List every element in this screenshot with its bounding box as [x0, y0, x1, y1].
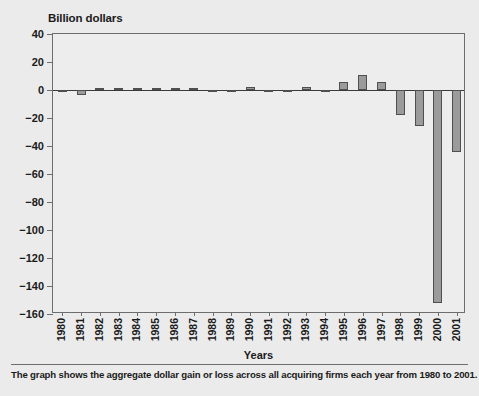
bar-1986: [171, 88, 180, 90]
bar-1989: [227, 90, 236, 92]
x-axis-tick: [137, 312, 138, 316]
bar-1999: [415, 90, 424, 126]
chart-footnote: The graph shows the aggregate dollar gai…: [11, 369, 471, 380]
x-axis-label-1998: 1998: [394, 318, 405, 341]
x-axis-label-1982: 1982: [94, 318, 105, 341]
y-axis-tick: [47, 90, 53, 91]
x-axis-tick: [344, 312, 345, 316]
footnote-divider: [11, 364, 468, 365]
y-axis-tick: [47, 174, 53, 175]
y-axis-tick: [47, 258, 53, 259]
x-axis-label-1986: 1986: [169, 318, 180, 341]
bar-1995: [339, 82, 348, 90]
bar-1998: [396, 90, 405, 115]
y-axis-label: −100: [19, 224, 44, 236]
x-axis-title: Years: [52, 349, 465, 361]
x-axis-label-1987: 1987: [188, 318, 199, 341]
x-axis-tick: [62, 312, 63, 316]
bar-1985: [152, 88, 161, 90]
x-axis-label-1989: 1989: [225, 318, 236, 341]
x-axis-label-1995: 1995: [338, 318, 349, 341]
x-axis-label-1997: 1997: [376, 318, 387, 341]
x-axis-tick: [457, 312, 458, 316]
bar-1992: [283, 90, 292, 92]
bar-1984: [133, 88, 142, 90]
x-axis-tick: [438, 312, 439, 316]
y-axis-label: −160: [19, 308, 44, 320]
y-axis-label: 40: [32, 28, 44, 40]
x-axis-tick: [363, 312, 364, 316]
x-axis-tick: [119, 312, 120, 316]
y-axis-label: −20: [25, 112, 44, 124]
bar-1982: [95, 88, 104, 90]
y-axis-tick: [47, 202, 53, 203]
x-axis-label-1988: 1988: [207, 318, 218, 341]
y-axis-tick: [47, 286, 53, 287]
plot-frame: 40200−20−40−60−80−100−120−140−160: [52, 33, 465, 313]
x-axis-label-1984: 1984: [131, 318, 142, 341]
plot-area: 40200−20−40−60−80−100−120−140−160: [53, 34, 464, 312]
bar-1981: [77, 90, 86, 95]
y-axis-tick: [47, 230, 53, 231]
y-axis-label: 20: [32, 56, 44, 68]
bar-1991: [264, 90, 273, 92]
x-axis-tick: [231, 312, 232, 316]
bar-1996: [358, 75, 367, 90]
bar-1990: [246, 87, 255, 90]
x-axis-tick: [306, 312, 307, 316]
x-axis-label-1981: 1981: [75, 318, 86, 341]
x-axis-tick: [100, 312, 101, 316]
x-axis-label-2000: 2000: [432, 318, 443, 341]
y-axis-tick: [47, 146, 53, 147]
x-axis-tick: [269, 312, 270, 316]
y-axis-label: −60: [25, 168, 44, 180]
y-axis-label: 0: [38, 84, 44, 96]
bar-1993: [302, 87, 311, 90]
x-axis-label-1990: 1990: [244, 318, 255, 341]
y-axis-label: −80: [25, 196, 44, 208]
y-axis-label: −120: [19, 252, 44, 264]
x-axis-tick: [175, 312, 176, 316]
x-axis-label-1991: 1991: [263, 318, 274, 341]
x-axis-label-1992: 1992: [282, 318, 293, 341]
y-axis-tick: [47, 118, 53, 119]
bar-2000: [433, 90, 442, 303]
y-axis-label: −140: [19, 280, 44, 292]
x-axis-tick: [213, 312, 214, 316]
x-axis-label-1985: 1985: [150, 318, 161, 341]
x-axis-tick: [194, 312, 195, 316]
bar-1987: [189, 88, 198, 90]
bar-1997: [377, 82, 386, 90]
x-axis-tick: [382, 312, 383, 316]
x-axis-label-2001: 2001: [451, 318, 462, 341]
x-axis-label-1980: 1980: [56, 318, 67, 341]
bar-1983: [114, 88, 123, 90]
y-axis-label: −40: [25, 140, 44, 152]
x-axis-label-1993: 1993: [300, 318, 311, 341]
x-axis-tick: [288, 312, 289, 316]
bar-1980: [58, 90, 67, 92]
x-axis-label-1994: 1994: [319, 318, 330, 341]
bar-1988: [208, 90, 217, 92]
x-axis-tick: [325, 312, 326, 316]
x-axis-tick: [156, 312, 157, 316]
x-axis-label-1983: 1983: [113, 318, 124, 341]
y-axis-title: Billion dollars: [48, 12, 123, 24]
y-axis-tick: [47, 62, 53, 63]
x-axis-tick: [81, 312, 82, 316]
chart-page: Billion dollars 40200−20−40−60−80−100−12…: [0, 0, 479, 396]
bar-2001: [452, 90, 461, 152]
bar-1994: [321, 90, 330, 92]
x-axis-label-1996: 1996: [357, 318, 368, 341]
y-axis-tick: [47, 314, 53, 315]
x-axis-tick: [250, 312, 251, 316]
x-axis-tick: [419, 312, 420, 316]
x-axis-label-1999: 1999: [413, 318, 424, 341]
x-axis-tick: [400, 312, 401, 316]
y-axis-tick: [47, 34, 53, 35]
